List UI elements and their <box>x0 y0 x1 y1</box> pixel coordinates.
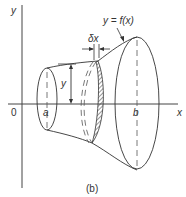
radius-arrow-head-bottom <box>69 99 73 104</box>
slice-disc <box>92 61 103 143</box>
y-axis-label: y <box>10 5 17 16</box>
b-label: b <box>133 107 139 118</box>
curve-label: y = f(x) <box>102 15 134 26</box>
radius-arrow-head-top <box>69 64 73 69</box>
curve-pointer-head <box>120 36 124 42</box>
solid-of-revolution-diagram: y δx y = f(x) y x 0 a b (b) <box>0 0 186 197</box>
dx-left-arrow-head <box>89 47 94 51</box>
lower-curve <box>47 130 137 170</box>
x-axis-label: x <box>176 107 183 118</box>
origin-label: 0 <box>11 107 17 118</box>
radius-label: y <box>60 78 67 89</box>
figure-caption: (b) <box>86 183 98 194</box>
dx-right-arrow-head <box>99 47 104 51</box>
slice-back-edge <box>84 62 96 143</box>
dx-label: δx <box>88 33 100 44</box>
a-label: a <box>43 107 49 118</box>
